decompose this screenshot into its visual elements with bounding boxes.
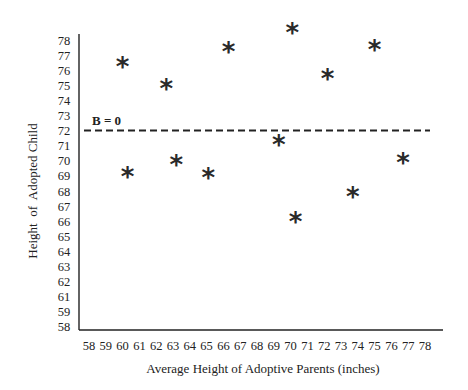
y-tick-label: 63 <box>58 260 71 274</box>
reference-line-label: B = 0 <box>92 113 121 128</box>
data-point-asterisk: * <box>121 162 135 192</box>
x-tick-label: 78 <box>419 339 432 353</box>
data-point-asterisk: * <box>116 52 130 82</box>
x-tick-label: 61 <box>133 339 146 353</box>
data-point-asterisk: * <box>396 148 410 178</box>
data-points: ************* <box>116 18 411 237</box>
x-tick-label: 70 <box>284 339 297 353</box>
data-point-asterisk: * <box>346 182 360 212</box>
data-point-asterisk: * <box>159 74 173 104</box>
x-tick-label: 77 <box>402 339 415 353</box>
x-tick-label: 73 <box>335 339 348 353</box>
y-tick-label: 64 <box>58 245 71 259</box>
data-point-asterisk: * <box>272 130 286 160</box>
y-tick-label: 67 <box>58 200 71 214</box>
x-tick-label: 72 <box>318 339 331 353</box>
y-tick-label: 68 <box>58 185 71 199</box>
y-tick-label: 77 <box>58 49 71 63</box>
x-tick-label: 62 <box>150 339 163 353</box>
y-tick-label: 59 <box>58 305 71 319</box>
y-tick-label: 75 <box>58 79 71 93</box>
data-point-asterisk: * <box>170 150 184 180</box>
x-tick-label: 60 <box>116 339 129 353</box>
scatter-chart: 7877767574737271706968676665646362615958… <box>0 0 468 390</box>
y-tick-label: 72 <box>58 124 71 138</box>
data-point-asterisk: * <box>222 37 236 67</box>
data-point-asterisk: * <box>321 64 335 94</box>
x-tick-label: 64 <box>184 339 197 353</box>
x-tick-label: 74 <box>352 339 365 353</box>
y-tick-label: 65 <box>58 230 71 244</box>
y-tick-labels: 7877767574737271706968676665646362615958 <box>58 34 71 335</box>
y-tick-label: 76 <box>58 64 71 78</box>
x-tick-label: 71 <box>301 339 314 353</box>
y-tick-label: 66 <box>58 215 71 229</box>
x-axis-title: Average Height of Adoptive Parents (inch… <box>146 361 379 376</box>
x-tick-label: 75 <box>368 339 381 353</box>
x-tick-label: 68 <box>251 339 264 353</box>
y-tick-label: 69 <box>58 169 71 183</box>
x-tick-label: 67 <box>234 339 247 353</box>
reference-line-group: B = 0 <box>84 113 430 131</box>
x-axis: 5859606162636465666768697071727374757677… <box>79 330 443 353</box>
data-point-asterisk: * <box>368 35 382 65</box>
x-tick-label: 58 <box>83 339 96 353</box>
data-point-asterisk: * <box>285 18 299 48</box>
data-point-asterisk: * <box>201 163 215 193</box>
y-axis-title: Height of Adopted Child <box>25 123 40 259</box>
y-tick-label: 73 <box>58 109 71 123</box>
x-tick-label: 63 <box>167 339 180 353</box>
y-tick-label: 74 <box>58 94 71 108</box>
y-tick-label: 70 <box>58 154 71 168</box>
y-tick-label: 61 <box>58 290 71 304</box>
y-axis: 7877767574737271706968676665646362615958 <box>58 34 79 335</box>
data-point-asterisk: * <box>289 207 303 237</box>
x-tick-label: 76 <box>385 339 398 353</box>
x-tick-label: 69 <box>268 339 281 353</box>
y-tick-label: 71 <box>58 139 71 153</box>
y-tick-label: 78 <box>58 34 71 48</box>
y-tick-label: 58 <box>58 320 71 334</box>
x-tick-label: 65 <box>200 339 213 353</box>
x-tick-labels: 5859606162636465666768697071727374757677… <box>83 339 432 353</box>
x-tick-label: 59 <box>100 339 113 353</box>
y-tick-label: 62 <box>58 275 71 289</box>
x-tick-label: 66 <box>217 339 230 353</box>
